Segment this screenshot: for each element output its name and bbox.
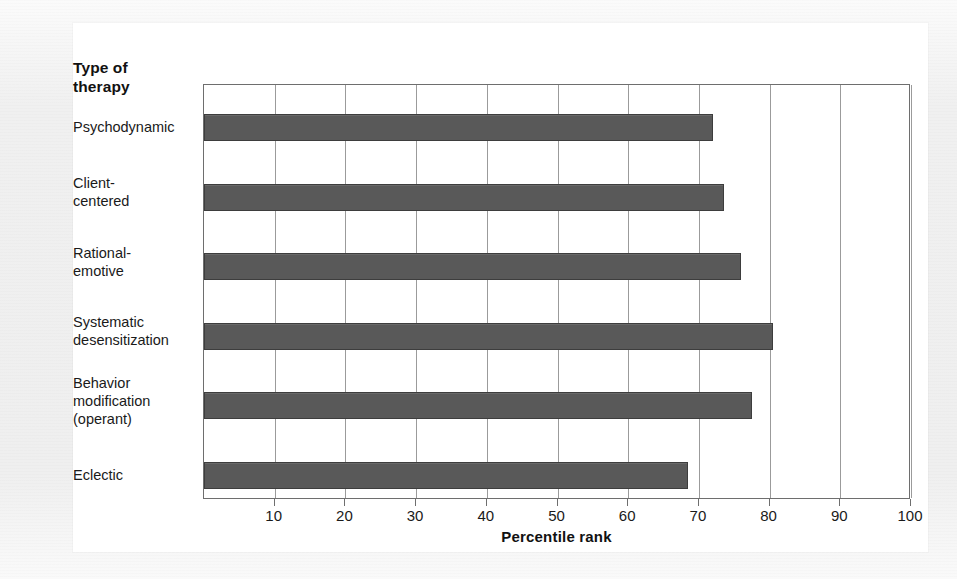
figure-card: Type of therapy PsychodynamicClient- cen…	[73, 23, 928, 552]
x-tick-mark-90	[839, 499, 840, 506]
x-tick-mark-20	[344, 499, 345, 506]
x-tick-label: 40	[464, 507, 508, 524]
category-label: Client- centered	[73, 174, 201, 210]
category-label: Eclectic	[73, 466, 201, 484]
gridline-60	[628, 85, 629, 498]
x-tick-mark-50	[557, 499, 558, 506]
bar	[204, 323, 773, 350]
x-tick-label: 30	[393, 507, 437, 524]
x-tick-mark-60	[627, 499, 628, 506]
x-tick-mark-80	[769, 499, 770, 506]
x-tick-label: 60	[605, 507, 649, 524]
category-label: Behavior modification (operant)	[73, 374, 201, 428]
gridline-70	[699, 85, 700, 498]
x-tick-label: 50	[535, 507, 579, 524]
x-axis-title: Percentile rank	[203, 528, 910, 545]
x-tick-mark-40	[486, 499, 487, 506]
category-label: Psychodynamic	[73, 118, 201, 136]
x-tick-label: 80	[747, 507, 791, 524]
x-tick-label: 20	[322, 507, 366, 524]
x-tick-mark-70	[698, 499, 699, 506]
gridline-10	[275, 85, 276, 498]
bar	[204, 114, 713, 141]
x-tick-label: 70	[676, 507, 720, 524]
bar	[204, 184, 724, 211]
plot-area	[203, 84, 910, 499]
category-label-column: PsychodynamicClient- centeredRational- e…	[73, 23, 201, 552]
x-tick-label: 90	[817, 507, 861, 524]
gridline-80	[770, 85, 771, 498]
category-label: Systematic desensitization	[73, 313, 201, 349]
x-tick-mark-10	[274, 499, 275, 506]
gridline-30	[416, 85, 417, 498]
x-tick-label: 100	[888, 507, 932, 524]
bar	[204, 462, 688, 489]
category-label: Rational- emotive	[73, 244, 201, 280]
gridline-100	[911, 85, 912, 498]
x-tick-mark-30	[415, 499, 416, 506]
x-tick-mark-100	[910, 499, 911, 506]
bar	[204, 392, 752, 419]
x-tick-label: 10	[252, 507, 296, 524]
gridline-90	[840, 85, 841, 498]
gridline-20	[345, 85, 346, 498]
gridline-50	[558, 85, 559, 498]
gridline-40	[487, 85, 488, 498]
bar	[204, 253, 741, 280]
